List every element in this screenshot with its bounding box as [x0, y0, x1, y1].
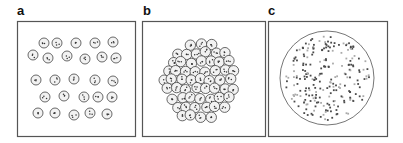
dot — [327, 103, 329, 105]
dot — [364, 78, 366, 80]
particle — [39, 38, 49, 48]
dot — [291, 98, 293, 100]
dot — [303, 55, 305, 57]
dot — [334, 76, 336, 78]
dot — [336, 113, 338, 115]
dot — [319, 81, 321, 83]
dot — [304, 70, 306, 72]
dot — [328, 104, 330, 106]
dot — [331, 117, 333, 119]
dot — [357, 83, 359, 85]
dot — [327, 45, 329, 47]
dot — [332, 63, 334, 65]
dot — [296, 49, 298, 51]
dot — [304, 78, 306, 80]
dot — [319, 61, 321, 63]
dot — [327, 110, 329, 112]
particle — [224, 55, 234, 65]
particle — [196, 56, 206, 66]
panel-a-particles — [28, 37, 121, 120]
dot — [321, 73, 323, 75]
particle — [85, 108, 95, 118]
dot — [333, 89, 335, 91]
dot — [299, 78, 301, 80]
particle — [107, 92, 117, 102]
dot — [329, 47, 331, 49]
dot — [351, 58, 353, 60]
particle — [111, 53, 121, 63]
dot — [346, 76, 348, 78]
dot — [325, 47, 327, 49]
dot — [296, 94, 298, 96]
dot — [341, 65, 343, 67]
dot — [326, 87, 328, 89]
particle — [50, 108, 60, 118]
particle — [209, 101, 219, 111]
dot — [313, 44, 315, 46]
dot — [296, 75, 298, 77]
dot — [314, 79, 316, 81]
dot — [336, 75, 338, 77]
dot — [293, 64, 295, 66]
dot — [305, 93, 307, 95]
dot — [293, 60, 295, 62]
dot — [320, 102, 322, 104]
dot — [336, 109, 338, 111]
dot — [312, 51, 314, 53]
particle — [69, 74, 79, 84]
dot — [339, 83, 341, 85]
dot — [330, 36, 332, 38]
dot — [322, 89, 324, 91]
dot — [343, 43, 345, 45]
dot — [346, 112, 348, 114]
dot — [302, 64, 304, 66]
dot — [328, 50, 330, 52]
dot — [363, 69, 365, 71]
dot — [361, 99, 363, 101]
particle — [209, 83, 219, 93]
dot — [304, 99, 306, 101]
dot — [312, 78, 314, 80]
dot — [319, 97, 321, 99]
dot — [303, 112, 305, 114]
dot — [305, 64, 307, 66]
dot — [303, 102, 305, 104]
panel-c-dots — [280, 31, 374, 125]
particle — [102, 109, 112, 119]
dot — [303, 54, 305, 56]
dot — [327, 119, 329, 121]
dot — [333, 86, 335, 88]
dot — [352, 65, 354, 67]
dot — [317, 101, 319, 103]
dot — [293, 84, 295, 86]
dot — [294, 58, 296, 60]
dot — [358, 58, 360, 60]
dot — [310, 75, 312, 77]
dot — [302, 63, 304, 65]
dot — [324, 66, 326, 68]
dot — [324, 118, 326, 120]
dot — [367, 68, 369, 70]
particle — [79, 92, 89, 102]
dot — [287, 77, 289, 79]
dot — [325, 111, 327, 113]
dot — [349, 60, 351, 62]
particle — [108, 76, 118, 86]
particle — [43, 53, 53, 63]
particle — [80, 54, 90, 64]
dot — [324, 41, 326, 43]
dot — [349, 99, 351, 101]
dot — [293, 94, 295, 96]
dot — [334, 42, 336, 44]
dot — [300, 95, 302, 97]
particle — [62, 51, 72, 61]
dot — [313, 110, 315, 112]
dot — [350, 48, 352, 50]
particle — [40, 92, 50, 102]
dot — [359, 95, 361, 97]
dot — [309, 89, 311, 91]
dot — [341, 95, 343, 97]
dot — [321, 49, 323, 51]
dot — [328, 66, 330, 68]
particle — [50, 75, 60, 85]
